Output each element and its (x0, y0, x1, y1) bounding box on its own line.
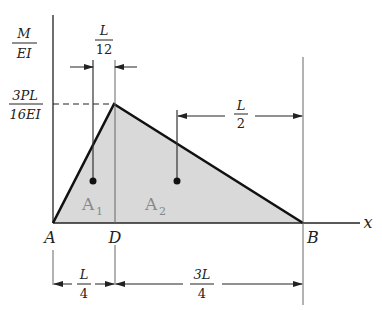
dim-L-over-12: L 12 (95, 23, 113, 57)
svg-text:4: 4 (80, 286, 88, 301)
svg-text:1: 1 (96, 205, 103, 218)
dim-3L-over-4: 3L 4 (190, 267, 214, 301)
svg-text:2: 2 (237, 116, 245, 131)
svg-text:3L: 3L (194, 267, 211, 282)
moment-area-diagram: M EI 3PL 16EI L 12 L 2 L 4 3L 4 A 1 A 2 (0, 0, 382, 310)
svg-text:2: 2 (159, 205, 166, 218)
point-D-label: D (108, 228, 122, 247)
svg-text:L: L (79, 267, 89, 282)
svg-text:3PL: 3PL (12, 88, 38, 103)
svg-text:4: 4 (198, 286, 206, 301)
dim-L-over-4: L 4 (77, 267, 91, 301)
y-axis-label: M EI (12, 26, 37, 61)
x-axis-label: x (363, 213, 372, 232)
svg-text:A: A (81, 194, 95, 214)
svg-text:L: L (99, 23, 109, 38)
svg-text:EI: EI (16, 46, 32, 61)
dim-L-over-2: L 2 (234, 98, 248, 131)
point-A-label: A (42, 228, 56, 247)
peak-value-label: 3PL 16EI (9, 88, 43, 122)
svg-text:A: A (144, 194, 158, 214)
centroid-A1 (90, 178, 97, 185)
point-B-label: B (306, 228, 319, 247)
centroid-A2 (174, 178, 181, 185)
svg-text:12: 12 (96, 42, 113, 57)
svg-text:L: L (236, 98, 246, 113)
svg-text:16EI: 16EI (9, 107, 41, 122)
svg-text:M: M (16, 26, 31, 41)
